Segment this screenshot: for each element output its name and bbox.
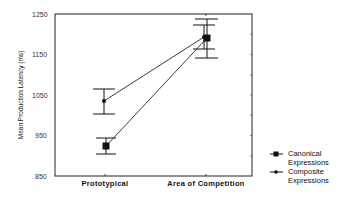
y-tick-label: 950	[35, 132, 47, 139]
square-marker-icon	[274, 152, 279, 157]
y-tick-label: 1150	[32, 51, 47, 58]
composite-series-line	[104, 37, 204, 101]
line-chart: 1250 1150 1050 950 850 Mean Production L…	[0, 0, 347, 198]
legend: Canonical Expressions Composite Expressi…	[270, 149, 329, 185]
legend-label: Expressions	[288, 158, 329, 167]
y-tick-label: 1250	[32, 11, 48, 18]
canonical-marker	[103, 143, 110, 150]
legend-item-composite: Composite Expressions	[270, 167, 329, 185]
x-category-label: Prototypical	[82, 179, 129, 188]
y-tick-label: 1050	[32, 92, 48, 99]
y-axis: 1250 1150 1050 950 850	[32, 11, 252, 180]
dot-marker-icon	[274, 170, 278, 174]
x-axis: Prototypical Area of Competition	[82, 14, 245, 188]
x-category-label: Area of Competition	[167, 179, 244, 188]
legend-label: Expressions	[288, 176, 329, 185]
canonical-series-line	[106, 38, 207, 146]
composite-marker	[102, 99, 106, 103]
legend-item-canonical: Canonical Expressions	[270, 149, 329, 167]
canonical-marker	[204, 35, 211, 42]
y-tick-label: 850	[35, 173, 47, 180]
y-axis-label: Mean Production Latency (ms)	[17, 51, 25, 140]
